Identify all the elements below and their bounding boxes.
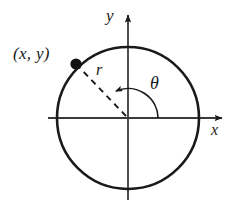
figure-canvas [0, 0, 251, 208]
point-marker [70, 58, 81, 69]
polar-coordinate-figure: (x, y) r θ x y [0, 0, 251, 208]
angle-theta-label: θ [150, 74, 159, 92]
radius-label: r [96, 62, 102, 78]
x-axis-label: x [211, 122, 218, 138]
point-coordinates-label: (x, y) [13, 45, 50, 62]
axes-group [48, 15, 222, 200]
y-axis-label: y [106, 7, 114, 24]
